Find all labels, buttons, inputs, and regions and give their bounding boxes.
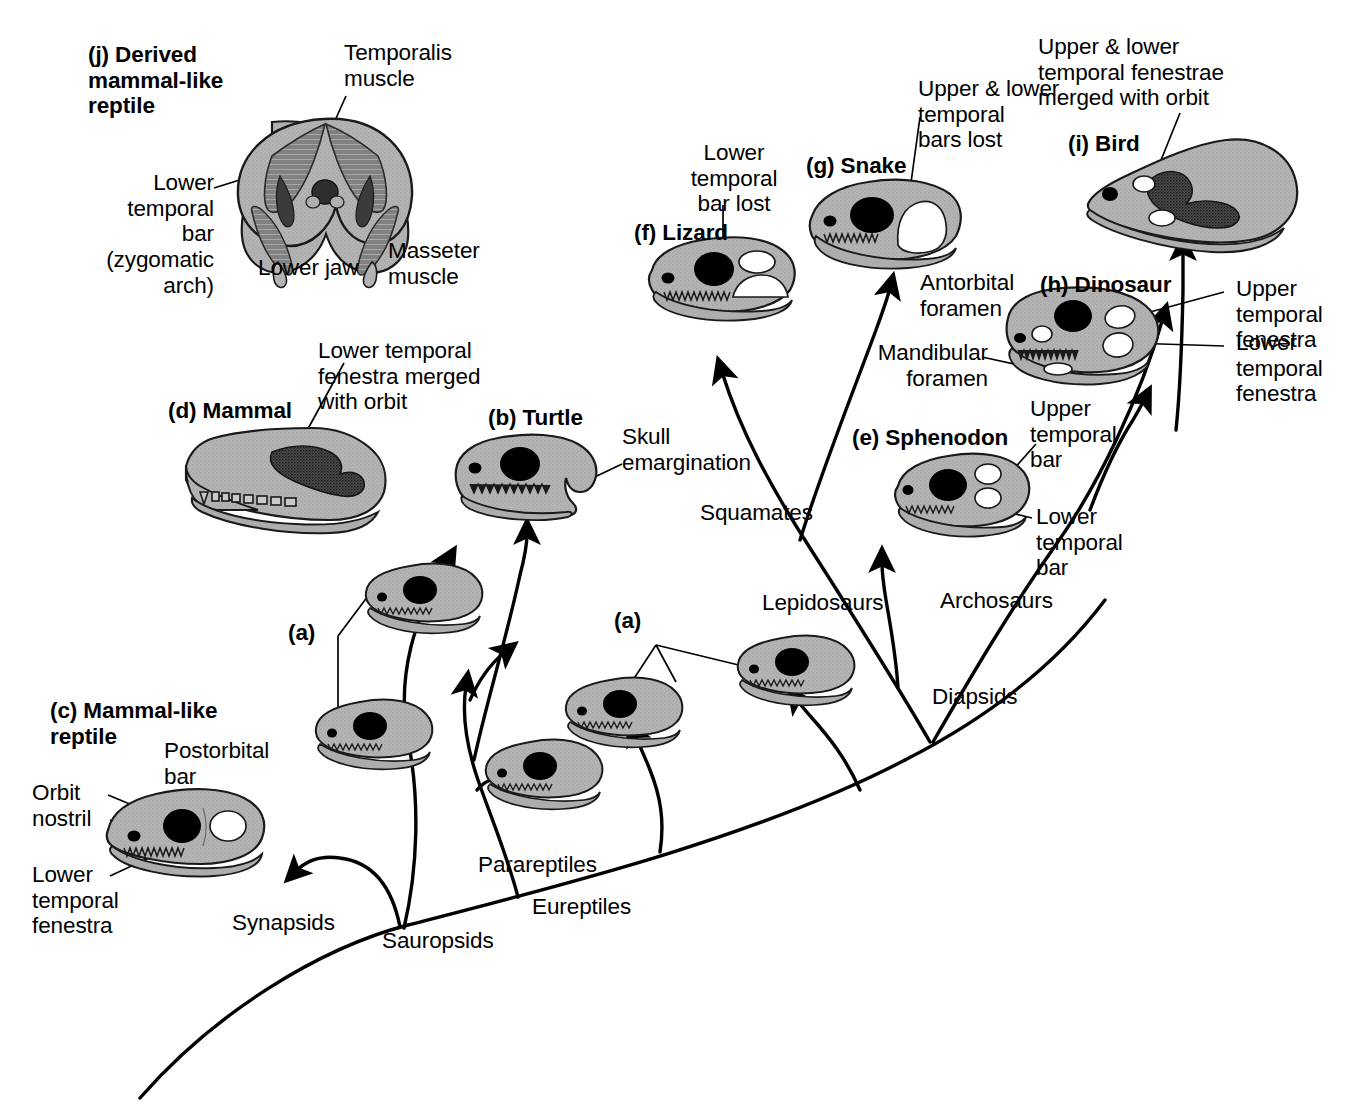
label-fenestrae-merged-orbit: Upper & lower temporal fenestrae merged … — [1038, 34, 1294, 111]
skull-e-sphenodon — [895, 454, 1029, 537]
label-upper-temporal-bar: Upper temporal bar — [1030, 396, 1150, 473]
label-lower-temporal-bar: Lower temporal bar — [1036, 504, 1156, 581]
skull-d-mammal — [186, 428, 385, 533]
label-temporalis-muscle: Temporalis muscle — [344, 40, 534, 91]
skull-f-lizard — [649, 237, 795, 320]
label-orbit: Orbit — [32, 780, 132, 806]
skull-a-ancestral-1 — [366, 564, 483, 634]
skull-b-turtle — [456, 435, 597, 520]
label-masseter-muscle: Masseter muscle — [388, 238, 538, 289]
label-lower-temporal-fenestra-merged-orbit: Lower temporal fenestra merged with orbi… — [318, 338, 528, 415]
clade-label-lepidosaurs: Lepidosaurs — [762, 590, 942, 616]
branch-eureptile-sub — [634, 734, 662, 852]
clade-label-sauropsids: Sauropsids — [382, 928, 552, 954]
label-mandibular-foramen: Mandibular foramen — [866, 340, 988, 391]
taxon-label-g: (g) Snake — [806, 153, 966, 179]
leader-a-right-3 — [656, 645, 676, 682]
figure-canvas: (j) Derived mammal-like reptile (d) Mamm… — [0, 0, 1371, 1112]
skull-g-snake — [810, 180, 961, 269]
clade-label-parareptiles: Parareptiles — [478, 852, 658, 878]
tree-branches — [140, 250, 1183, 1098]
skull-a-ancestral-3 — [486, 740, 603, 810]
taxon-label-j: (j) Derived mammal-like reptile — [88, 42, 298, 119]
label-skull-emargination: Skull emargination — [622, 424, 802, 475]
label-postorbital-bar: Postorbital bar — [164, 738, 304, 789]
skull-a-ancestral-5 — [738, 636, 855, 706]
skull-a-ancestral-2 — [316, 700, 433, 770]
taxon-label-f: (f) Lizard — [634, 220, 794, 246]
clade-label-archosaurs: Archosaurs — [940, 588, 1110, 614]
label-lower-temporal-bar-zygomatic: Lower temporal bar (zygomatic arch) — [38, 170, 214, 298]
label-lower-temporal-fenestra-c: Lower temporal fenestra — [32, 862, 162, 939]
leader-a-right-1 — [656, 645, 751, 668]
label-lower-temporal-bar-lost: Lower temporal bar lost — [678, 140, 790, 217]
marker-a-left: (a) — [288, 620, 348, 646]
skull-a-ancestral-4 — [566, 678, 683, 748]
clade-label-eureptiles: Eureptiles — [532, 894, 692, 920]
clade-label-diapsids: Diapsids — [932, 684, 1072, 710]
branch-diapsid-sub — [797, 700, 860, 790]
clade-label-squamates: Squamates — [700, 500, 860, 526]
marker-a-right: (a) — [614, 608, 674, 634]
label-lower-temporal-fenestra: Lower temporal fenestra — [1236, 330, 1356, 407]
label-antorbital-foramen: Antorbital foramen — [920, 270, 1080, 321]
clade-label-synapsids: Synapsids — [232, 910, 392, 936]
branch-to-turtle — [474, 534, 527, 760]
label-nostril: nostril — [32, 806, 132, 832]
